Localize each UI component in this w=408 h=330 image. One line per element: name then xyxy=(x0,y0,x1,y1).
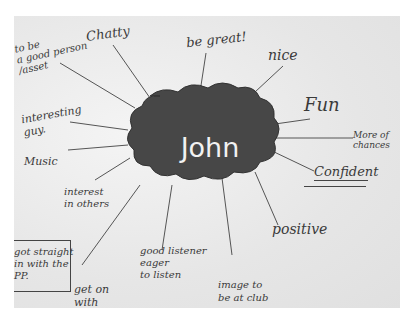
branch-fun: Fun xyxy=(304,96,340,114)
branch-confident: Confident xyxy=(314,165,378,178)
branch-positive: positive xyxy=(272,224,327,235)
branch-get-on-with: get on with xyxy=(74,283,109,309)
branch-interest-others: interest in others xyxy=(64,186,109,210)
branch-more-of-chances: More of chances xyxy=(353,130,390,150)
branch-nice: nice xyxy=(268,50,298,61)
branch-image-club: image to be at club xyxy=(218,278,268,304)
branch-music: Music xyxy=(24,156,58,167)
confident-underline-2 xyxy=(304,186,366,187)
central-topic: John xyxy=(165,132,255,163)
branch-good-listener: good listener eager to listen xyxy=(140,245,207,281)
confident-underline xyxy=(314,180,368,181)
branch-got-straight: got straight in with the PP. xyxy=(14,246,74,282)
